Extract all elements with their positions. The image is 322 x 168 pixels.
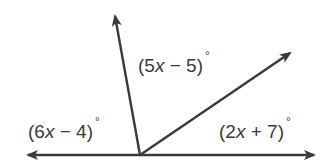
right-angle-const: + 7) [245,121,284,142]
right-angle-var: x [236,121,246,142]
left-angle-var: x [45,121,55,142]
left-angle-coef: (6 [28,121,45,142]
degree-symbol: ° [95,115,100,129]
degree-symbol: ° [205,49,210,63]
middle-angle-const: − 5) [164,55,203,76]
left-angle-label: (6x − 4)° [28,122,100,141]
right-angle-coef: (2 [219,121,236,142]
right-angle-label: (2x + 7)° [219,122,291,141]
middle-angle-coef: (5 [138,55,155,76]
up-ray [115,16,140,155]
middle-angle-var: x [155,55,165,76]
angle-diagram [0,0,322,168]
left-angle-const: − 4) [54,121,93,142]
degree-symbol: ° [286,115,291,129]
middle-angle-label: (5x − 5)° [138,56,210,75]
